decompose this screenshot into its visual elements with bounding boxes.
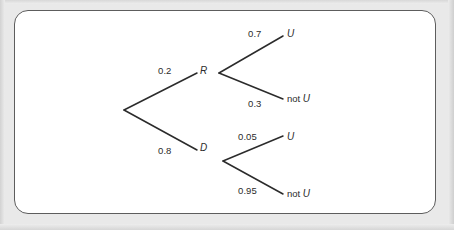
edge-label-root-to-r: 0.2: [158, 66, 172, 76]
edge-root-to-r: [124, 73, 197, 110]
outcome-label-d-not-u: not U: [287, 189, 310, 199]
outcome-word-not-d: not: [287, 188, 303, 199]
outcome-label-d-u: U: [287, 132, 294, 142]
edge-r-to-u: [219, 36, 283, 73]
outcome-word-not-r: not: [287, 93, 303, 104]
outcome-var-u-d: U: [303, 188, 310, 199]
figure-root: 0.2 0.8 R D 0.7 0.3 0.05 0.95 U not U U …: [0, 0, 454, 230]
outcome-label-r-not-u: not U: [287, 94, 310, 104]
edge-label-d-to-not-u: 0.95: [238, 186, 257, 196]
node-label-r: R: [200, 66, 207, 76]
edge-label-r-to-u: 0.7: [248, 29, 262, 39]
edge-label-d-to-u: 0.05: [238, 132, 257, 142]
edge-label-r-to-not-u: 0.3: [248, 99, 262, 109]
edge-label-root-to-d: 0.8: [158, 146, 172, 156]
probability-tree-graphic: [0, 0, 454, 230]
edge-r-to-not-u: [219, 73, 283, 99]
outcome-var-u-r: U: [303, 93, 310, 104]
node-label-d: D: [200, 143, 207, 153]
edge-root-to-d: [124, 110, 197, 150]
outcome-label-r-u: U: [287, 29, 294, 39]
